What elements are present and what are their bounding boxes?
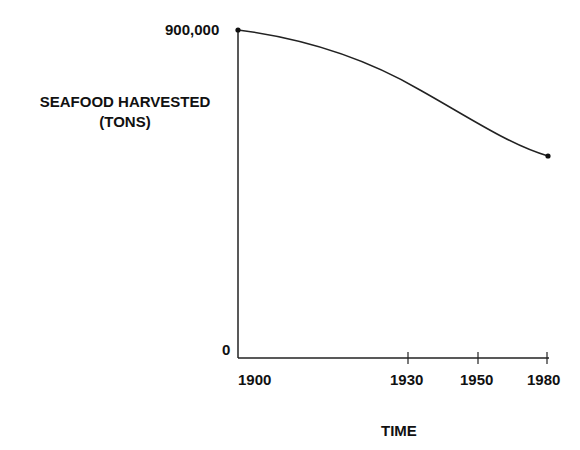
y-axis-label-line1: SEAFOOD HARVESTED [18, 93, 232, 110]
x-tick-label-1900: 1900 [238, 371, 271, 388]
data-line [238, 30, 548, 156]
data-point-end [545, 153, 550, 158]
x-tick-label-1930: 1930 [390, 371, 423, 388]
x-tick-label-1980: 1980 [527, 371, 560, 388]
y-tick-max: 900,000 [165, 21, 219, 38]
x-axis-label: TIME [381, 422, 417, 439]
x-tick-label-1950: 1950 [460, 371, 493, 388]
y-axis-label-line2: (TONS) [18, 113, 232, 130]
data-point-start [235, 27, 240, 32]
y-tick-zero: 0 [222, 341, 230, 358]
